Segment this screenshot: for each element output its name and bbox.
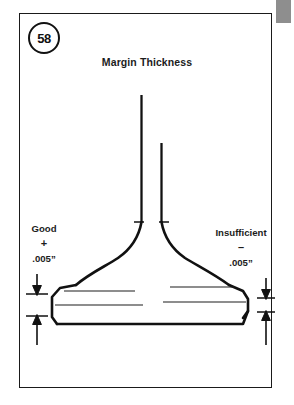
left-margin-label-sign: + — [14, 236, 74, 252]
left-margin-label: Good + .005” — [14, 222, 74, 266]
left-margin-label-value: .005” — [14, 252, 74, 266]
left-dimension-arrow-group — [26, 274, 48, 345]
right-margin-label-value: .005” — [198, 256, 284, 270]
left-margin-label-name: Good — [31, 223, 56, 234]
crown-margin-cross-section-drawing — [0, 0, 294, 405]
right-margin-label: Insufficient – .005” — [198, 226, 284, 270]
right-dimension-arrow-group — [257, 278, 275, 345]
base-interior-detail-lines — [55, 287, 246, 305]
axial-walls-group — [134, 95, 169, 222]
right-margin-label-sign: – — [198, 240, 284, 256]
left-flare-curve — [76, 222, 142, 285]
figure-page: 58 Margin Thickness — [0, 0, 294, 405]
base-bottom-edge — [57, 311, 248, 324]
right-margin-label-name: Insufficient — [215, 227, 266, 238]
